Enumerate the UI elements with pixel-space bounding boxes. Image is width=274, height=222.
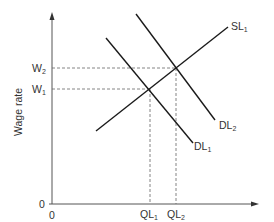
y-axis-arrow-icon	[50, 12, 55, 20]
demand-curve-dl2	[136, 14, 215, 120]
ql2-label: QL2	[167, 208, 185, 221]
w1-label: W1	[32, 83, 46, 96]
sl1-label: SL1	[231, 20, 248, 33]
y-axis-title: Wage rate	[12, 88, 24, 136]
w2-label: W2	[32, 62, 46, 75]
dl2-label: DL2	[219, 119, 236, 132]
ql1-label: QL1	[140, 208, 158, 221]
supply-curve-sl1	[96, 27, 228, 131]
dl1-label: DL1	[194, 140, 211, 153]
labor-market-diagram: W2 W1 0 0 Wage rate QL1 QL2 SL1 DL2 DL1 …	[0, 0, 274, 222]
y-origin-label: 0	[39, 198, 45, 210]
demand-curve-dl1	[106, 38, 193, 143]
x-axis-arrow-icon	[251, 202, 259, 207]
x-origin-label: 0	[49, 209, 55, 221]
